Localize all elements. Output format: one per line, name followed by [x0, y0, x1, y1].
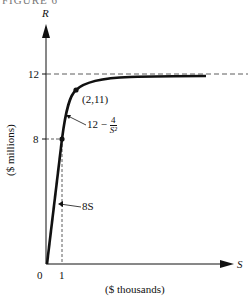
line-label-leader	[60, 204, 81, 207]
point-2-11	[73, 87, 78, 92]
line-label-8s: 8S	[82, 201, 94, 212]
chart-canvas	[0, 0, 252, 301]
point-label-2-11: (2,11)	[82, 94, 108, 105]
x-axis-symbol: S	[237, 259, 243, 270]
y-axis-arrow-icon	[42, 24, 50, 38]
line-8s	[47, 139, 62, 264]
y-tick-8: 8	[33, 134, 39, 145]
curve-12-minus-4-over-s2	[62, 76, 206, 139]
point-1-8	[59, 136, 64, 141]
x-axis-arrow-icon	[220, 260, 234, 268]
curve-label-leader	[68, 116, 86, 125]
x-tick-1: 1	[59, 270, 65, 281]
x-axis-label: ($ thousands)	[105, 284, 165, 295]
y-tick-12: 12	[28, 69, 39, 80]
y-axis-symbol: R	[42, 8, 49, 19]
curve-label-fraction: 4 S²	[110, 116, 117, 135]
x-tick-0: 0	[37, 270, 43, 281]
curve-label: 12 − 4 S²	[87, 116, 117, 135]
y-axis-label: ($ millions)	[4, 124, 16, 176]
curve-label-prefix: 12 −	[87, 118, 107, 130]
